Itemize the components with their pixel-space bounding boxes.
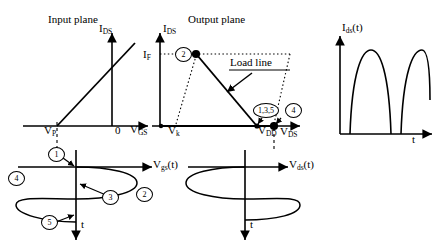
- output-plane-y-axis-label: IDS: [163, 23, 176, 34]
- load-line-leader: [227, 73, 252, 92]
- vgs-marker-5: 5: [41, 215, 58, 230]
- output-plane-title: Output plane: [188, 14, 245, 25]
- output-plane-if-label: IF: [143, 49, 151, 60]
- output-plane-marker-2: 2: [175, 47, 192, 62]
- output-plane-point-2-dot: [192, 50, 200, 58]
- vgs-marker-5-leader: [56, 215, 74, 222]
- vgs-marker-1: 1: [48, 147, 65, 162]
- vds-waveform-time-label: t: [250, 219, 253, 230]
- input-plane-y-axis-label: IDS: [99, 23, 112, 34]
- figure-root: Input plane Output plane IDS VGS VP 0 ID…: [0, 0, 437, 245]
- ids-waveform-x-axis-label: t: [412, 134, 415, 145]
- vgs-waveform-time-label: t: [81, 219, 84, 230]
- output-plane-vdd-label: VDD: [258, 125, 277, 136]
- output-plane-vk-label: Vk: [168, 125, 180, 136]
- ids-waveform-pulse-1: [350, 50, 391, 134]
- vds-waveform-sinusoid: [186, 167, 300, 220]
- drain-current-waveform-group: [340, 36, 432, 134]
- vgs-waveform-x-axis-label: Vgs(t): [153, 159, 178, 170]
- output-plane-marker-4: 4: [285, 103, 302, 118]
- vgs-marker-1-leader: [63, 158, 74, 166]
- input-plane-origin-label: 0: [115, 125, 121, 136]
- output-plane-marker-135: 1,3,5: [253, 103, 279, 118]
- vgs-marker-4: 4: [8, 171, 25, 186]
- vds-waveform-x-axis-label: Vds(t): [289, 159, 314, 170]
- output-plane-origin-dot: [159, 124, 163, 128]
- input-plane-pinchoff-label: VP: [44, 125, 56, 136]
- vgs-marker-2: 2: [136, 187, 153, 202]
- point-4-leader: [276, 118, 281, 124]
- input-plane-title: Input plane: [48, 14, 98, 25]
- input-plane-x-axis-label: VGS: [130, 124, 148, 135]
- load-line-label: Load line: [230, 57, 272, 68]
- vds-waveform-group: [186, 150, 300, 240]
- ids-waveform-y-axis-label: Ids(t): [342, 22, 363, 33]
- output-plane-knee-dotted-line: [176, 56, 196, 124]
- output-plane-x-axis-label: VDS: [280, 126, 298, 137]
- vgs-marker-3: 3: [102, 190, 119, 205]
- ids-waveform-pulse-2: [401, 50, 430, 134]
- diagram-canvas: [0, 0, 437, 245]
- input-plane-transfer-curve: [57, 43, 135, 126]
